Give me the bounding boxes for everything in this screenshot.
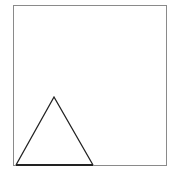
triangle-shape (16, 97, 93, 165)
diagram-canvas (0, 0, 169, 175)
square-frame (14, 6, 167, 166)
